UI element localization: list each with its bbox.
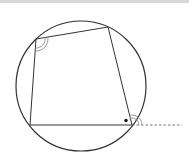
angle-dot-bottom-right — [124, 119, 127, 122]
cyclic-quadrilateral-diagram — [0, 0, 189, 161]
